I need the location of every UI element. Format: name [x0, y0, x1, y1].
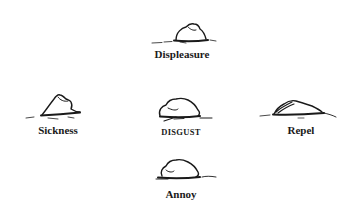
peaked-mound-sketch-icon — [24, 90, 84, 122]
mound-sketch-icon — [154, 92, 214, 124]
node-label-displeasure: Displeasure — [152, 48, 212, 60]
node-label-disgust: DISGUST — [156, 127, 206, 137]
flattened-mound-sketch-icon — [258, 96, 340, 124]
node-label-sickness: Sickness — [28, 124, 88, 136]
low-mound-sketch-icon — [150, 152, 220, 184]
mound-sketch-icon — [150, 16, 220, 46]
node-label-repel: Repel — [276, 124, 326, 136]
node-label-annoy: Annoy — [156, 188, 206, 200]
